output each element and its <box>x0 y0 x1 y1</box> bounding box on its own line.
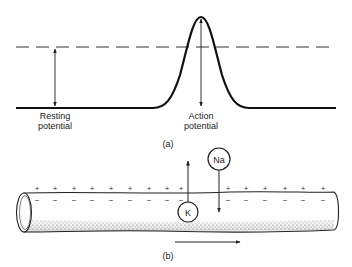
membrane-potential-curve <box>16 17 336 108</box>
svg-text:−: − <box>128 196 133 205</box>
action-potential-label: Action <box>188 111 213 121</box>
panel-b: + + + + + + + + + + + + + + + − − − − − … <box>17 148 339 261</box>
potassium-ion-label: K <box>185 208 191 218</box>
svg-text:+: + <box>321 184 326 193</box>
svg-text:+: + <box>226 184 231 193</box>
action-potential-diagram: Resting potential Action potential (a) +… <box>0 0 352 267</box>
svg-text:+: + <box>90 184 95 193</box>
svg-text:+: + <box>147 184 152 193</box>
svg-text:−: − <box>321 196 326 205</box>
sodium-ion-label: Na <box>213 155 225 165</box>
svg-text:+: + <box>128 184 133 193</box>
svg-text:−: − <box>165 196 170 205</box>
svg-text:−: − <box>263 196 268 205</box>
svg-text:+: + <box>35 184 40 193</box>
svg-text:+: + <box>53 184 58 193</box>
resting-potential-label-2: potential <box>38 121 72 131</box>
svg-text:−: − <box>90 196 95 205</box>
svg-text:+: + <box>109 184 114 193</box>
svg-text:−: − <box>147 196 152 205</box>
svg-text:−: − <box>301 196 306 205</box>
axon-open-end <box>17 193 32 232</box>
svg-text:−: − <box>72 196 77 205</box>
svg-text:−: − <box>244 196 249 205</box>
panel-b-caption: (b) <box>163 251 174 261</box>
svg-text:+: + <box>244 184 249 193</box>
svg-text:+: + <box>165 184 170 193</box>
svg-text:+: + <box>283 184 288 193</box>
panel-a: Resting potential Action potential (a) <box>16 17 336 149</box>
action-potential-label-2: potential <box>184 121 218 131</box>
svg-text:−: − <box>53 196 58 205</box>
svg-text:+: + <box>179 184 184 193</box>
svg-text:−: − <box>226 196 231 205</box>
resting-potential-label: Resting <box>40 111 71 121</box>
svg-text:−: − <box>283 196 288 205</box>
svg-text:+: + <box>263 184 268 193</box>
svg-text:−: − <box>109 196 114 205</box>
svg-text:+: + <box>301 184 306 193</box>
svg-text:+: + <box>72 184 77 193</box>
panel-a-caption: (a) <box>163 139 174 149</box>
extracellular-plus-signs: + + + + + + + + + + + + + + + <box>35 184 326 193</box>
svg-text:−: − <box>35 196 40 205</box>
